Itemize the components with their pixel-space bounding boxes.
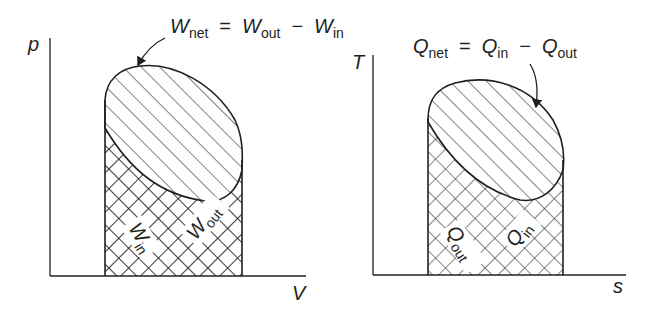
w-net-equation: Wnet = Wout − Win [170,15,344,42]
ts-diagram: T s Qnet = Qin − Qout Qout Qin [352,35,626,297]
p-axis-label: p [27,33,39,55]
t-axis-label: T [352,51,366,73]
q-net-equation: Qnet = Qin − Qout [413,35,577,62]
thermodynamic-cycle-diagrams: p V Wnet = Wout − Win Win Wout T s [0,0,662,318]
pv-diagram: p V Wnet = Wout − Win Win Wout [27,15,344,304]
w-net-leader-arrow [138,38,165,65]
v-axis-label: V [292,282,307,304]
s-axis-label: s [613,275,623,297]
